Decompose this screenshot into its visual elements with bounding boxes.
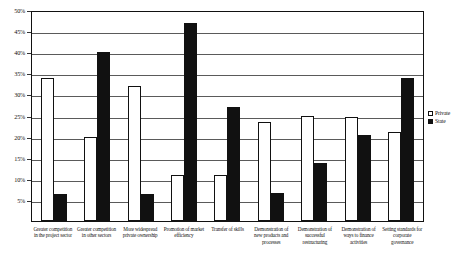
bar-state[interactable] <box>141 194 154 221</box>
bar-private[interactable] <box>84 137 97 221</box>
bar-group <box>75 12 118 221</box>
bar-state[interactable] <box>184 23 197 221</box>
bar-group <box>206 12 249 221</box>
bar-state[interactable] <box>358 135 371 221</box>
y-axis-tick-label: 40% <box>14 50 25 56</box>
legend-item-label: Private <box>435 110 450 116</box>
bar-private[interactable] <box>388 132 401 221</box>
y-axis-tick-label: 50% <box>14 8 25 14</box>
bar-state[interactable] <box>97 52 110 221</box>
bar-private[interactable] <box>214 175 227 221</box>
y-axis-tick-label: 35% <box>14 71 25 77</box>
x-axis-category-label: Demonstration of new products and proces… <box>249 226 293 276</box>
bar-private[interactable] <box>41 78 54 221</box>
y-axis-tick-label: 30% <box>14 92 25 98</box>
x-axis-category-label: Transfer of skills <box>206 226 250 276</box>
y-axis-tick-label: 20% <box>14 134 25 140</box>
y-axis: 5%10%15%20%25%30%35%40%45%50% <box>0 0 26 225</box>
legend-item-state[interactable]: State <box>428 118 465 124</box>
bar-state[interactable] <box>271 193 284 221</box>
y-axis-tick-label: 45% <box>14 29 25 35</box>
bar-private[interactable] <box>171 175 184 221</box>
bar-state[interactable] <box>401 78 414 221</box>
bar-group <box>293 12 336 221</box>
bar-group <box>162 12 205 221</box>
y-axis-tick-label: 25% <box>14 113 25 119</box>
bar-group <box>32 12 75 221</box>
bar-group <box>119 12 162 221</box>
chart-legend: PrivateState <box>428 110 465 126</box>
bar-private[interactable] <box>345 117 358 221</box>
legend-item-private[interactable]: Private <box>428 110 465 116</box>
x-axis-category-label: Greater competition in other sectors <box>75 226 119 276</box>
bar-group <box>336 12 379 221</box>
y-axis-tick-label: 10% <box>14 177 25 183</box>
bar-chart: 5%10%15%20%25%30%35%40%45%50% Greater co… <box>0 0 465 277</box>
open-square-swatch <box>428 111 433 116</box>
x-axis-category-labels: Greater competition in the project secto… <box>31 226 424 276</box>
bar-private[interactable] <box>301 116 314 222</box>
bar-state[interactable] <box>54 194 67 221</box>
legend-item-label: State <box>435 118 446 124</box>
x-axis-category-label: Setting standards for corporate governan… <box>380 226 424 276</box>
x-axis-category-label: Greater competition in the project secto… <box>31 226 75 276</box>
x-axis-category-label: Promotion of market efficiency <box>162 226 206 276</box>
bar-private[interactable] <box>258 122 271 221</box>
x-axis-category-label: More widespread private ownership <box>118 226 162 276</box>
bars-layer <box>32 12 423 221</box>
bar-private[interactable] <box>128 86 141 221</box>
bar-group <box>380 12 423 221</box>
x-axis-category-label: Demonstration of successful restructurin… <box>293 226 337 276</box>
y-axis-tick-label: 15% <box>14 156 25 162</box>
bar-state[interactable] <box>227 107 240 221</box>
y-axis-tick-label: 5% <box>17 198 25 204</box>
bar-state[interactable] <box>314 163 327 221</box>
x-axis-category-label: Demonstration of ways to finance activit… <box>337 226 381 276</box>
bar-group <box>249 12 292 221</box>
plot-area <box>31 11 424 222</box>
filled-square-swatch <box>428 119 433 124</box>
